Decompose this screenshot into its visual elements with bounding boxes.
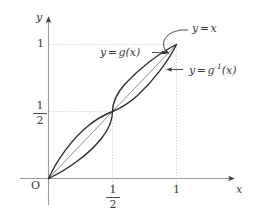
y-axis-label: y xyxy=(36,12,42,23)
y-tick-label-1: 1 xyxy=(37,38,44,49)
origin-label: O xyxy=(31,180,40,191)
y-tick-half-numerator: 1 xyxy=(33,100,47,112)
x-tick-label-1: 1 xyxy=(173,184,180,195)
annotation-g-eq: = xyxy=(106,46,118,59)
annotation-ginv-exponent: -1 xyxy=(214,62,221,71)
x-tick-label-half: 1 2 xyxy=(106,184,120,210)
x-axis-label: x xyxy=(236,184,242,195)
y-tick-half-denominator: 2 xyxy=(33,115,47,127)
leader-curve-g xyxy=(152,53,166,54)
annotation-identity-eq: = xyxy=(198,22,210,35)
x-tick-half-numerator: 1 xyxy=(106,184,120,196)
annotation-curve-g-inverse: y=g-1(x) xyxy=(189,63,237,76)
annotation-ginv-eq: = xyxy=(195,64,207,77)
gridlines xyxy=(49,45,178,193)
annotation-identity-rhs: x xyxy=(210,22,216,35)
annotation-g-rhs: g(x) xyxy=(118,46,140,59)
annotation-identity-line: y=x xyxy=(192,23,217,34)
x-tick-half-denominator: 2 xyxy=(106,199,120,211)
function-inverse-figure: y x O 1 1 2 1 2 1 y=x y=g(x) y=g-1(x) xyxy=(0,0,257,221)
annotation-ginv-rhs-post: (x) xyxy=(222,64,237,77)
annotation-curve-g: y=g(x) xyxy=(100,47,140,58)
y-tick-label-half: 1 2 xyxy=(33,100,47,126)
